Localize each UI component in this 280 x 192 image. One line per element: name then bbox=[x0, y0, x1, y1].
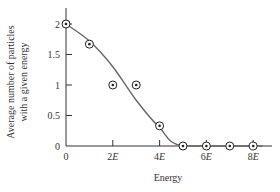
y-tick-label: 2 bbox=[55, 19, 60, 30]
data-point bbox=[132, 81, 140, 89]
data-point bbox=[85, 40, 93, 48]
y-tick-label: 1 bbox=[55, 80, 60, 91]
fit-curve bbox=[66, 24, 263, 146]
data-point bbox=[109, 81, 117, 89]
data-point bbox=[202, 142, 210, 150]
data-point bbox=[156, 122, 164, 130]
chart: 00.511.52 02E4E6E8E Energy Average numbe… bbox=[0, 0, 280, 192]
x-tick-label: 2E bbox=[107, 151, 118, 162]
y-axis-label: Average number of particles with a given… bbox=[5, 25, 29, 138]
fit-curve-path bbox=[66, 24, 263, 146]
data-point bbox=[62, 20, 70, 28]
y-axis-label-line-1: Average number of particles bbox=[5, 25, 16, 138]
x-tick-label: 8E bbox=[248, 151, 259, 162]
x-tick-label: 0 bbox=[64, 151, 69, 162]
data-point bbox=[249, 142, 257, 150]
x-tick-label: 6E bbox=[201, 151, 212, 162]
data-points bbox=[62, 20, 257, 150]
axes bbox=[66, 8, 272, 146]
x-axis-label: Energy bbox=[154, 172, 183, 183]
y-tick-label: 0.5 bbox=[48, 110, 61, 121]
y-tick-label: 1.5 bbox=[48, 49, 61, 60]
data-point bbox=[179, 142, 187, 150]
x-tick-label: 4E bbox=[154, 151, 165, 162]
y-ticks: 00.511.52 bbox=[48, 19, 73, 152]
y-axis-label-line-2: with a given energy bbox=[18, 43, 29, 122]
data-point bbox=[226, 142, 234, 150]
y-tick-label: 0 bbox=[55, 141, 60, 152]
